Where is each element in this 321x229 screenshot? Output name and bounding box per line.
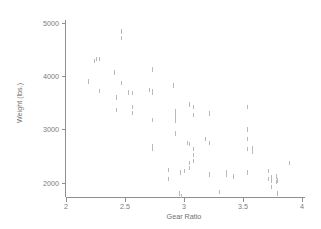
x-axis-title: Gear Ratio xyxy=(167,212,202,221)
y-axis-title: Weight (lbs.) xyxy=(15,83,24,123)
x-tick-label: 2 xyxy=(64,202,68,211)
x-tick-label: 3.5 xyxy=(238,202,248,211)
scatter-plot-figure: 200030004000500022.533.54 Gear RatioWeig… xyxy=(0,0,321,229)
y-tick-label: 5000 xyxy=(43,19,59,28)
x-tick-label: 3 xyxy=(182,202,186,211)
axis-titles-group: Gear RatioWeight (lbs.) xyxy=(15,83,201,221)
y-tick-label: 2000 xyxy=(43,179,59,188)
plot-canvas: 200030004000500022.533.54 Gear RatioWeig… xyxy=(0,0,321,229)
x-tick-label: 2.5 xyxy=(120,202,130,211)
x-tick-label: 4 xyxy=(300,202,304,211)
y-tick-label: 3000 xyxy=(43,125,59,134)
y-tick-label: 4000 xyxy=(43,72,59,81)
tick-labels-group: 200030004000500022.533.54 xyxy=(43,19,304,211)
data-points-group xyxy=(88,29,289,198)
ticks-group xyxy=(62,23,303,202)
